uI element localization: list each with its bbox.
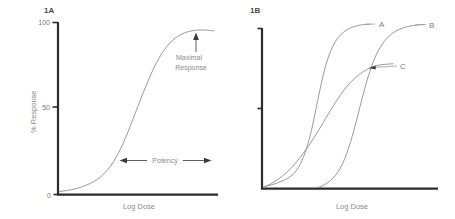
panel-1a-x-axis-title: Log Dose (123, 202, 155, 211)
panel-1b-curve-label-b: B (429, 21, 434, 30)
panel-1a-potency-label: Potency (152, 157, 178, 165)
panel-1a-y-axis-title: % Response (29, 90, 38, 133)
panel-1b-tag: 1B (250, 6, 260, 15)
panel-1a-tick-label-100: 100 (38, 19, 50, 26)
panel-1a-tick-label-50: 50 (42, 104, 50, 111)
panel-1b-curve-label-a: A (379, 20, 385, 29)
panel-1a-maximal-label-line2: Response (175, 64, 207, 72)
panel-1b-x-axis-title: Log Dose (336, 202, 368, 211)
canvas-background (0, 0, 455, 219)
panel-1b-curve-label-c: C (400, 62, 406, 71)
panel-1a-tag: 1A (44, 6, 54, 15)
panel-1a-maximal-label-line1: Maximal (176, 54, 203, 61)
panel-1a-tick-label-0: 0 (47, 192, 51, 199)
